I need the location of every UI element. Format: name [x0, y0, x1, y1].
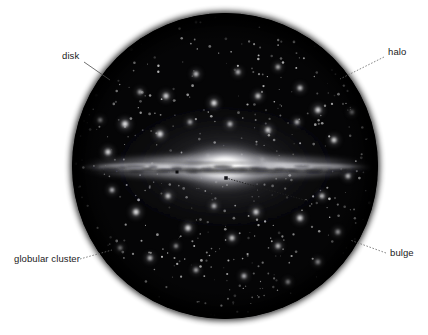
diagram-canvas: disk halo globular cluster bulge	[0, 0, 428, 335]
galaxy-diagram-figure: disk halo globular cluster bulge	[0, 0, 428, 335]
telescope-field-of-view	[72, 13, 378, 319]
label-bulge: bulge	[390, 247, 414, 258]
label-globular-cluster: globular cluster	[14, 253, 80, 264]
leader-line-halo	[340, 57, 384, 79]
label-halo: halo	[388, 46, 406, 57]
label-disk: disk	[62, 50, 79, 61]
